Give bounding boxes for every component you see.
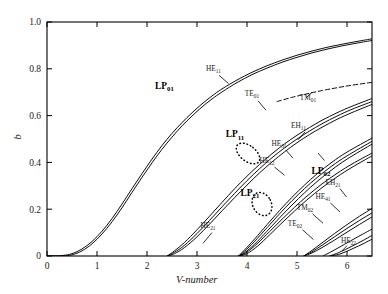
svg-text:0: 0 bbox=[36, 251, 41, 261]
svg-text:HE31: HE31 bbox=[271, 139, 286, 149]
svg-text:TM01: TM01 bbox=[300, 93, 317, 103]
highlight-ellipse-layer bbox=[233, 139, 276, 219]
svg-text:0.2: 0.2 bbox=[29, 205, 41, 215]
x-axis-label: V-number bbox=[176, 274, 217, 285]
chart-figure: 012345600.20.40.60.81.0 LP01LP11LP21LP02… bbox=[0, 0, 388, 294]
svg-text:HE22: HE22 bbox=[341, 236, 356, 246]
svg-text:6: 6 bbox=[345, 261, 350, 271]
svg-text:TE01: TE01 bbox=[245, 89, 260, 99]
svg-text:EH11: EH11 bbox=[291, 121, 306, 131]
svg-text:0.8: 0.8 bbox=[29, 64, 41, 74]
leader-line-layer bbox=[203, 75, 347, 251]
svg-text:LP21: LP21 bbox=[241, 188, 260, 199]
svg-text:EH21: EH21 bbox=[325, 178, 340, 188]
svg-text:LP11: LP11 bbox=[226, 129, 245, 140]
mode-dispersion-plot: 012345600.20.40.60.81.0 LP01LP11LP21LP02… bbox=[0, 0, 388, 294]
svg-text:1: 1 bbox=[95, 261, 100, 271]
svg-text:3: 3 bbox=[195, 261, 200, 271]
mode-label-layer: LP01LP11LP21LP02HE11TE01TM01EH11HE31HE12… bbox=[155, 64, 356, 246]
svg-text:0: 0 bbox=[45, 261, 50, 271]
svg-text:TM02: TM02 bbox=[297, 203, 314, 213]
svg-text:TE02: TE02 bbox=[288, 219, 303, 229]
y-axis-label: b bbox=[11, 134, 23, 140]
svg-text:HE41: HE41 bbox=[315, 192, 330, 202]
x-axis-label-text: -number bbox=[182, 274, 218, 285]
svg-text:HE21: HE21 bbox=[200, 221, 215, 231]
svg-text:HE11: HE11 bbox=[206, 64, 221, 74]
svg-text:4: 4 bbox=[245, 261, 250, 271]
svg-text:0.6: 0.6 bbox=[29, 111, 41, 121]
svg-text:LP02: LP02 bbox=[312, 166, 331, 177]
svg-text:0.4: 0.4 bbox=[29, 158, 41, 168]
svg-text:1.0: 1.0 bbox=[29, 17, 41, 27]
svg-text:5: 5 bbox=[295, 261, 300, 271]
svg-text:LP01: LP01 bbox=[155, 81, 174, 92]
svg-text:2: 2 bbox=[145, 261, 150, 271]
